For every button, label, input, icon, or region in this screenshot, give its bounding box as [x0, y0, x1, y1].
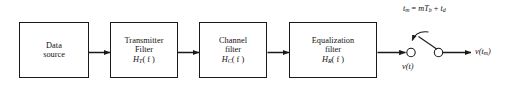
block-transmitter-filter-line1: Transmitter: [125, 36, 164, 45]
block-data-source-line1: Data: [46, 41, 62, 50]
block-data-source[interactable]: Data source: [19, 22, 89, 78]
block-equalization-filter[interactable]: Equalization filter HR( f ): [289, 22, 377, 78]
output-v-symbol: v(t: [475, 47, 484, 56]
block-diagram: Data source Transmitter Filter HT( f ) C…: [0, 0, 508, 87]
block-equalization-filter-line1: Equalization: [312, 36, 355, 45]
block-data-source-line2: source: [43, 50, 65, 59]
timing-td-subscript: d: [443, 7, 446, 13]
sampler-output-terminal: [434, 48, 442, 56]
signal-label-vt: v(t): [402, 62, 414, 71]
block-equalization-filter-line2: filter: [325, 45, 341, 54]
timing-equals: =: [410, 4, 419, 13]
block-channel-filter[interactable]: Channel filter HC( f ): [199, 22, 267, 78]
block-channel-filter-line1: Channel: [219, 36, 247, 45]
sampler-input-terminal: [407, 48, 415, 56]
transmitter-tf-argument: ( f ): [142, 55, 154, 64]
output-close-paren: ): [488, 47, 491, 56]
output-label-vtm: v(tm): [475, 47, 491, 56]
block-channel-filter-transfer-function: HC( f ): [222, 55, 244, 64]
equalization-tf-argument: ( f ): [332, 55, 344, 64]
block-equalization-filter-transfer-function: HR( f ): [322, 55, 344, 64]
block-transmitter-filter-transfer-function: HT( f ): [133, 55, 155, 64]
block-channel-filter-line2: filter: [225, 45, 241, 54]
sampling-instant-arrow: [412, 32, 428, 41]
block-transmitter-filter-line2: Filter: [135, 45, 153, 54]
sampler-switch-arm: [419, 37, 438, 50]
block-transmitter-filter[interactable]: Transmitter Filter HT( f ): [110, 22, 178, 78]
channel-tf-argument: ( f ): [232, 55, 244, 64]
sampling-instant-equation: tm = mTb + td: [403, 4, 446, 13]
